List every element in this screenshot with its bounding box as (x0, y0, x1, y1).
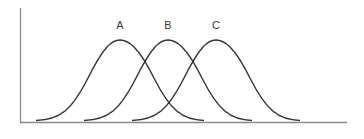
curve-b (84, 40, 252, 121)
bell-curves-chart: A B C (0, 0, 364, 139)
label-c: C (212, 19, 220, 31)
label-b: B (164, 19, 171, 31)
curve-a (36, 40, 204, 121)
label-a: A (116, 19, 124, 31)
curve-c (132, 40, 300, 121)
